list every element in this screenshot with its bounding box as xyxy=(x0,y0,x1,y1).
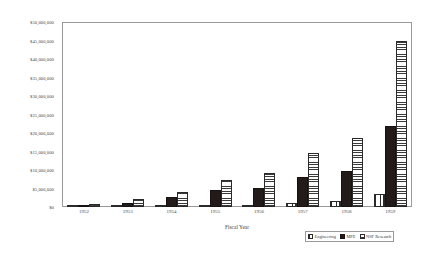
x-axis-tick-label: 1952 xyxy=(62,209,106,221)
chart-legend: EngineeringMPENSF Research xyxy=(305,231,394,242)
bar-nsf-research-1958 xyxy=(352,138,363,207)
y-axis-tick-label: $30,000,000 xyxy=(30,94,54,99)
legend-label: NSF Research xyxy=(366,234,391,239)
x-axis: 19521953195419551956195719581959 xyxy=(62,209,412,221)
bar-group xyxy=(325,22,369,207)
legend-swatch-nsf-research-icon xyxy=(360,234,365,239)
bar-nsf-research-1959 xyxy=(396,41,407,208)
x-axis-tick-label: 1958 xyxy=(325,209,369,221)
y-axis-tick-label: $40,000,000 xyxy=(30,57,54,62)
y-axis-tick-label: $25,000,000 xyxy=(30,112,54,117)
legend-label: Engineering xyxy=(315,234,336,239)
bar-group xyxy=(193,22,237,207)
bar-mpe-1959 xyxy=(385,126,396,207)
x-axis-tick-label: 1957 xyxy=(281,209,325,221)
bar-nsf-research-1956 xyxy=(264,173,275,207)
bar-nsf-research-1954 xyxy=(177,192,188,207)
y-axis-tick-label: $35,000,000 xyxy=(30,75,54,80)
y-axis-tick-label: $0 xyxy=(49,205,54,210)
bar-nsf-research-1953 xyxy=(133,199,144,207)
bar-mpe-1955 xyxy=(210,190,221,207)
y-axis-tick-label: $50,000,000 xyxy=(30,20,54,25)
bar-group xyxy=(150,22,194,207)
bar-nsf-research-1957 xyxy=(308,153,319,207)
y-axis-tick-label: $20,000,000 xyxy=(30,131,54,136)
bar-mpe-1954 xyxy=(166,197,177,207)
bar-group xyxy=(368,22,412,207)
bar-mpe-1956 xyxy=(253,188,264,207)
bar-engineering-1954 xyxy=(155,205,166,207)
bar-group xyxy=(281,22,325,207)
legend-swatch-engineering-icon xyxy=(308,234,313,239)
bar-group xyxy=(106,22,150,207)
legend-entry: NSF Research xyxy=(360,234,392,239)
bar-group xyxy=(237,22,281,207)
legend-entry: MPE xyxy=(340,234,356,239)
bar-engineering-1955 xyxy=(199,205,210,207)
x-axis-tick-label: 1955 xyxy=(193,209,237,221)
x-axis-tick-label: 1959 xyxy=(368,209,412,221)
bar-engineering-1957 xyxy=(286,203,297,207)
y-axis-tick-label: $45,000,000 xyxy=(30,38,54,43)
bar-nsf-research-1952 xyxy=(89,204,100,207)
legend-swatch-mpe-icon xyxy=(340,234,345,239)
bar-chart: $0$5,000,000$10,000,000$15,000,000$20,00… xyxy=(0,0,448,258)
bar-engineering-1953 xyxy=(111,205,122,207)
bar-engineering-1952 xyxy=(67,205,78,207)
y-axis: $0$5,000,000$10,000,000$15,000,000$20,00… xyxy=(0,22,58,207)
x-axis-tick-label: 1954 xyxy=(150,209,194,221)
bar-mpe-1957 xyxy=(297,177,308,207)
y-axis-tick-label: $5,000,000 xyxy=(32,186,54,191)
legend-entry: Engineering xyxy=(308,234,336,239)
bar-group xyxy=(62,22,106,207)
x-axis-tick-label: 1953 xyxy=(106,209,150,221)
bars-layer xyxy=(62,22,412,207)
bar-mpe-1952 xyxy=(78,205,89,207)
y-axis-tick-label: $15,000,000 xyxy=(30,149,54,154)
x-axis-tick-label: 1956 xyxy=(237,209,281,221)
y-axis-tick-label: $10,000,000 xyxy=(30,168,54,173)
bar-engineering-1958 xyxy=(330,201,341,207)
x-axis-title: Fiscal Year xyxy=(62,224,412,230)
legend-label: MPE xyxy=(346,234,355,239)
bar-engineering-1959 xyxy=(374,194,385,207)
bar-nsf-research-1955 xyxy=(221,180,232,207)
bar-mpe-1958 xyxy=(341,171,352,207)
bar-engineering-1956 xyxy=(242,205,253,207)
bar-mpe-1953 xyxy=(122,203,133,207)
